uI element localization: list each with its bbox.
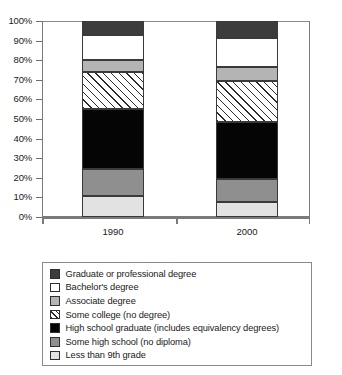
x-tick-label: 2000 — [236, 226, 257, 237]
legend-swatch — [50, 269, 60, 279]
bar-segment — [216, 67, 278, 81]
bar-segment — [216, 202, 278, 217]
legend-item: High school graduate (includes equivalen… — [43, 321, 311, 335]
y-tick-label: 20% — [14, 173, 32, 183]
x-tick-label: 1990 — [102, 226, 123, 237]
x-tick-mark — [309, 217, 311, 224]
legend-label: High school graduate (includes equivalen… — [66, 323, 280, 333]
y-tick-label: 30% — [14, 153, 32, 163]
legend-swatch — [50, 310, 60, 320]
legend-label: Some high school (no diploma) — [66, 337, 191, 347]
chart-page: 0%10%20%30%40%50%60%70%80%90%100% 199020… — [0, 0, 342, 375]
y-tick-label: 0% — [19, 212, 32, 222]
stacked-bar-chart: 0%10%20%30%40%50%60%70%80%90%100% 199020… — [0, 0, 342, 250]
bar-segment — [82, 60, 144, 72]
legend-swatch — [50, 337, 60, 347]
legend-swatch — [50, 351, 60, 361]
bar-segment — [216, 21, 278, 38]
legend-label: Less than 9th grade — [66, 350, 146, 360]
y-tick-label: 50% — [14, 114, 32, 124]
bar-segment — [82, 72, 144, 109]
legend-label: Bachelor's degree — [66, 282, 139, 292]
bar-segment — [82, 21, 144, 35]
bar-segment — [82, 35, 144, 60]
legend-swatch — [50, 283, 60, 293]
bar-segment — [216, 179, 278, 203]
y-axis: 0%10%20%30%40%50%60%70%80%90%100% — [0, 0, 42, 250]
legend-item: Associate degree — [43, 294, 311, 308]
chart-legend: Graduate or professional degreeBachelor'… — [42, 262, 312, 366]
bar-segment — [216, 81, 278, 122]
legend-item: Some college (no degree) — [43, 308, 311, 322]
legend-label: Graduate or professional degree — [66, 269, 197, 279]
legend-label: Associate degree — [66, 296, 136, 306]
y-tick-label: 100% — [9, 16, 33, 26]
legend-swatch — [50, 323, 60, 333]
bar-segment — [216, 122, 278, 179]
y-tick-label: 10% — [14, 192, 32, 202]
x-tick-mark — [176, 217, 178, 224]
legend-label: Some college (no degree) — [66, 310, 171, 320]
bar-segment — [82, 169, 144, 196]
y-tick-label: 70% — [14, 75, 32, 85]
legend-item: Bachelor's degree — [43, 281, 311, 295]
legend-item: Some high school (no diploma) — [43, 335, 311, 349]
bar-segment — [82, 196, 144, 217]
bar-segment — [82, 109, 144, 169]
y-tick-label: 90% — [14, 36, 32, 46]
y-tick-label: 40% — [14, 134, 32, 144]
x-tick-mark — [42, 217, 44, 224]
legend-swatch — [50, 296, 60, 306]
y-tick-label: 60% — [14, 94, 32, 104]
bar-segment — [216, 38, 278, 67]
bar-1990 — [82, 21, 144, 217]
legend-item: Graduate or professional degree — [43, 267, 311, 281]
legend-item: Less than 9th grade — [43, 349, 311, 363]
bar-2000 — [216, 21, 278, 217]
y-tick-label: 80% — [14, 55, 32, 65]
